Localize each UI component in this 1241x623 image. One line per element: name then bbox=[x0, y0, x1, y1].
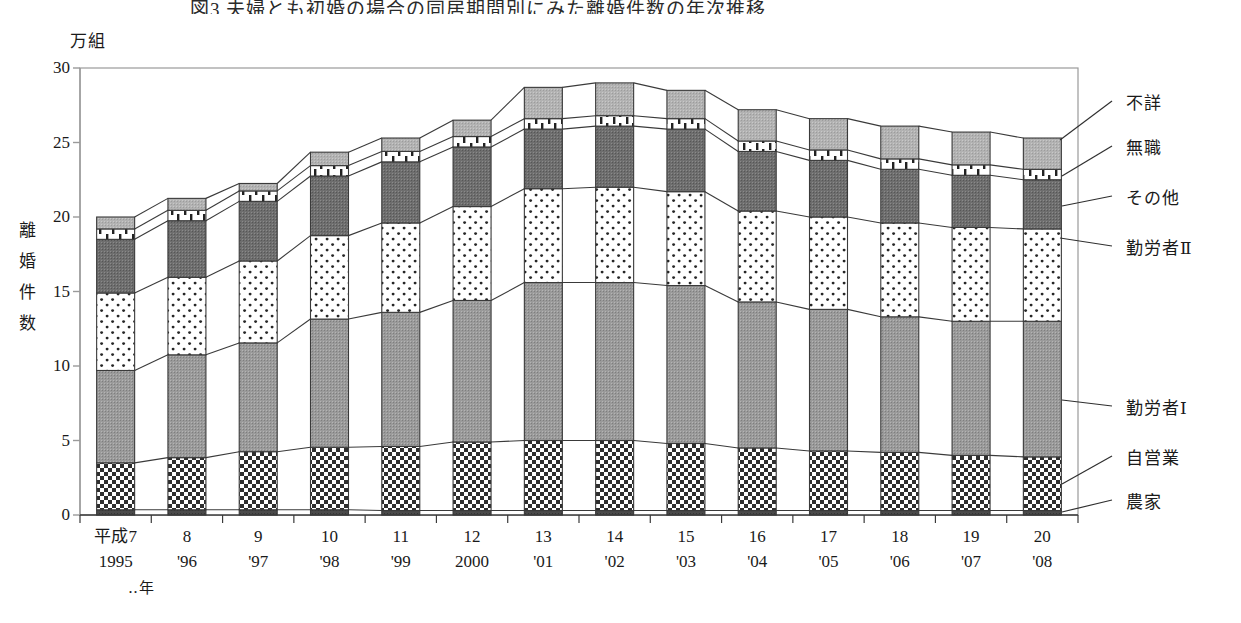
stacked-bar-column[interactable] bbox=[1023, 138, 1061, 515]
bar-segment-fusho[interactable] bbox=[667, 90, 705, 118]
bar-segment-mushoku[interactable] bbox=[596, 116, 634, 126]
bar-segment-mushoku[interactable] bbox=[311, 166, 349, 176]
stacked-bar-column[interactable] bbox=[881, 126, 919, 515]
bar-segment-noka[interactable] bbox=[239, 510, 277, 515]
bar-segment-mushoku[interactable] bbox=[952, 165, 990, 175]
bar-segment-fusho[interactable] bbox=[453, 120, 491, 136]
stacked-bar-column[interactable] bbox=[952, 132, 990, 515]
bar-segment-fusho[interactable] bbox=[97, 217, 135, 229]
bar-segment-kinrosha2[interactable] bbox=[667, 192, 705, 286]
bar-segment-kinrosha1[interactable] bbox=[952, 321, 990, 455]
bar-segment-sonota[interactable] bbox=[881, 169, 919, 223]
bar-segment-jieigyo[interactable] bbox=[738, 448, 776, 511]
bar-segment-jieigyo[interactable] bbox=[1023, 457, 1061, 511]
bar-segment-kinrosha2[interactable] bbox=[596, 187, 634, 282]
bar-segment-mushoku[interactable] bbox=[382, 151, 420, 161]
bar-segment-kinrosha1[interactable] bbox=[168, 355, 206, 458]
bar-segment-mushoku[interactable] bbox=[810, 150, 848, 160]
bar-segment-sonota[interactable] bbox=[810, 160, 848, 217]
bar-segment-mushoku[interactable] bbox=[524, 119, 562, 129]
bar-segment-mushoku[interactable] bbox=[881, 159, 919, 169]
bar-segment-mushoku[interactable] bbox=[453, 137, 491, 147]
bar-segment-fusho[interactable] bbox=[952, 132, 990, 165]
bar-segment-sonota[interactable] bbox=[453, 147, 491, 207]
bar-segment-kinrosha2[interactable] bbox=[311, 236, 349, 319]
bar-segment-jieigyo[interactable] bbox=[382, 446, 420, 510]
bar-segment-kinrosha2[interactable] bbox=[453, 207, 491, 301]
bar-segment-jieigyo[interactable] bbox=[667, 443, 705, 510]
bar-segment-jieigyo[interactable] bbox=[168, 458, 206, 510]
stacked-bar-column[interactable] bbox=[453, 120, 491, 515]
bar-segment-kinrosha1[interactable] bbox=[524, 283, 562, 441]
bar-segment-sonota[interactable] bbox=[311, 176, 349, 236]
bar-segment-sonota[interactable] bbox=[524, 129, 562, 189]
bar-segment-sonota[interactable] bbox=[596, 126, 634, 187]
stacked-bar-column[interactable] bbox=[667, 90, 705, 515]
bar-segment-kinrosha2[interactable] bbox=[952, 227, 990, 321]
bar-segment-kinrosha1[interactable] bbox=[881, 317, 919, 453]
stacked-bar-column[interactable] bbox=[738, 110, 776, 515]
bar-segment-noka[interactable] bbox=[168, 510, 206, 515]
bar-segment-sonota[interactable] bbox=[667, 129, 705, 192]
bar-segment-fusho[interactable] bbox=[1023, 138, 1061, 169]
bar-segment-kinrosha2[interactable] bbox=[97, 293, 135, 370]
bar-segment-fusho[interactable] bbox=[239, 183, 277, 190]
bar-segment-sonota[interactable] bbox=[97, 239, 135, 293]
stacked-bar-column[interactable] bbox=[168, 198, 206, 515]
bar-segment-kinrosha2[interactable] bbox=[239, 261, 277, 343]
bar-segment-sonota[interactable] bbox=[952, 175, 990, 227]
bar-segment-kinrosha1[interactable] bbox=[97, 370, 135, 462]
bar-segment-sonota[interactable] bbox=[168, 221, 206, 278]
bar-segment-kinrosha2[interactable] bbox=[738, 211, 776, 302]
bar-segment-fusho[interactable] bbox=[881, 126, 919, 159]
bar-segment-kinrosha2[interactable] bbox=[1023, 229, 1061, 321]
bar-segment-kinrosha1[interactable] bbox=[667, 286, 705, 444]
bar-segment-kinrosha1[interactable] bbox=[239, 343, 277, 452]
stacked-bar-column[interactable] bbox=[311, 152, 349, 515]
bar-segment-fusho[interactable] bbox=[524, 87, 562, 118]
bar-segment-kinrosha1[interactable] bbox=[453, 300, 491, 442]
bar-segment-noka[interactable] bbox=[311, 510, 349, 515]
bar-segment-mushoku[interactable] bbox=[239, 191, 277, 201]
bar-segment-sonota[interactable] bbox=[239, 201, 277, 261]
stacked-bar-column[interactable] bbox=[810, 119, 848, 515]
stacked-bar-column[interactable] bbox=[596, 83, 634, 515]
bar-segment-kinrosha1[interactable] bbox=[810, 309, 848, 451]
bar-segment-fusho[interactable] bbox=[382, 138, 420, 151]
bar-segment-kinrosha2[interactable] bbox=[382, 223, 420, 312]
bar-segment-kinrosha2[interactable] bbox=[168, 277, 206, 354]
bar-segment-kinrosha1[interactable] bbox=[311, 319, 349, 447]
bar-segment-mushoku[interactable] bbox=[168, 210, 206, 220]
bar-segment-mushoku[interactable] bbox=[97, 229, 135, 239]
stacked-bar-column[interactable] bbox=[239, 183, 277, 515]
bar-segment-mushoku[interactable] bbox=[1023, 169, 1061, 179]
bar-segment-kinrosha2[interactable] bbox=[524, 189, 562, 283]
bar-segment-jieigyo[interactable] bbox=[596, 441, 634, 511]
bar-segment-kinrosha1[interactable] bbox=[596, 283, 634, 441]
bar-segment-fusho[interactable] bbox=[168, 198, 206, 210]
stacked-bar-column[interactable] bbox=[97, 217, 135, 515]
bar-segment-jieigyo[interactable] bbox=[239, 452, 277, 510]
bar-segment-fusho[interactable] bbox=[311, 152, 349, 165]
bar-segment-jieigyo[interactable] bbox=[810, 451, 848, 511]
bar-segment-kinrosha1[interactable] bbox=[382, 312, 420, 446]
stacked-bar-column[interactable] bbox=[524, 87, 562, 515]
bar-segment-fusho[interactable] bbox=[738, 110, 776, 141]
bar-segment-noka[interactable] bbox=[97, 510, 135, 515]
bar-segment-jieigyo[interactable] bbox=[311, 447, 349, 510]
bar-segment-fusho[interactable] bbox=[810, 119, 848, 150]
bar-segment-jieigyo[interactable] bbox=[453, 442, 491, 511]
bar-segment-kinrosha1[interactable] bbox=[1023, 321, 1061, 457]
bar-segment-mushoku[interactable] bbox=[667, 119, 705, 129]
bar-segment-jieigyo[interactable] bbox=[97, 463, 135, 510]
bar-segment-jieigyo[interactable] bbox=[952, 455, 990, 510]
bar-segment-jieigyo[interactable] bbox=[524, 441, 562, 511]
bar-segment-sonota[interactable] bbox=[382, 162, 420, 223]
bar-segment-jieigyo[interactable] bbox=[881, 452, 919, 510]
bar-segment-mushoku[interactable] bbox=[738, 141, 776, 151]
bar-segment-kinrosha2[interactable] bbox=[810, 217, 848, 309]
bar-segment-sonota[interactable] bbox=[1023, 180, 1061, 229]
bar-segment-kinrosha1[interactable] bbox=[738, 302, 776, 448]
bar-segment-sonota[interactable] bbox=[738, 151, 776, 211]
stacked-bar-column[interactable] bbox=[382, 138, 420, 515]
